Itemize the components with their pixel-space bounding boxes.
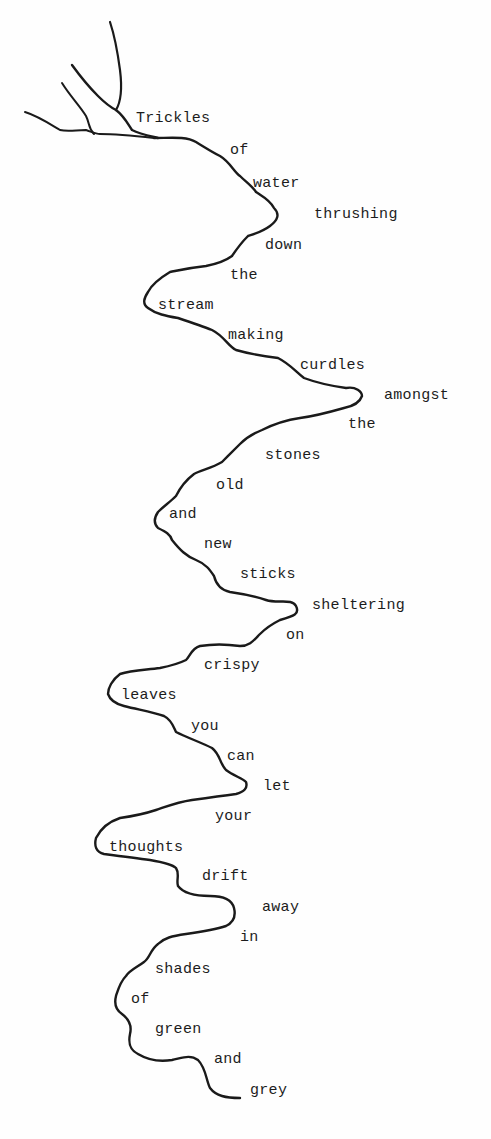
poem-word: can <box>227 749 255 764</box>
poem-word: drift <box>202 869 249 884</box>
tributary-branch-1 <box>110 22 121 110</box>
poem-word: sticks <box>240 567 296 582</box>
poem-word: water <box>253 176 300 191</box>
poem-word: crispy <box>204 658 260 673</box>
tributary-branch-2 <box>72 65 158 138</box>
poem-page: Tricklesofwaterthrushingdownthestreammak… <box>0 0 491 1139</box>
poem-word: curdles <box>300 358 365 373</box>
poem-word: sheltering <box>312 598 405 613</box>
poem-word: your <box>215 809 252 824</box>
poem-word: old <box>216 478 244 493</box>
poem-word: the <box>348 417 376 432</box>
poem-word: shades <box>155 962 211 977</box>
poem-word: stream <box>158 298 214 313</box>
poem-word: on <box>286 628 305 643</box>
poem-word: grey <box>250 1083 287 1098</box>
poem-word: let <box>263 779 291 794</box>
poem-word: leaves <box>121 688 177 703</box>
poem-word: away <box>262 900 299 915</box>
poem-word: you <box>191 719 219 734</box>
poem-word: and <box>169 507 197 522</box>
poem-word: stones <box>265 448 321 463</box>
poem-word: green <box>155 1022 202 1037</box>
poem-word: thrushing <box>314 207 398 222</box>
main-stream <box>95 138 362 1098</box>
poem-word: Trickles <box>136 111 210 126</box>
poem-word: in <box>240 930 259 945</box>
poem-word: and <box>214 1052 242 1067</box>
poem-word: of <box>230 143 249 158</box>
poem-word: thoughts <box>109 840 183 855</box>
poem-word: down <box>265 238 302 253</box>
poem-word: making <box>228 328 284 343</box>
poem-word: of <box>131 992 150 1007</box>
tributary-branch-3 <box>62 83 94 134</box>
poem-word: new <box>204 537 232 552</box>
poem-word: amongst <box>384 388 449 403</box>
poem-word: the <box>230 268 258 283</box>
